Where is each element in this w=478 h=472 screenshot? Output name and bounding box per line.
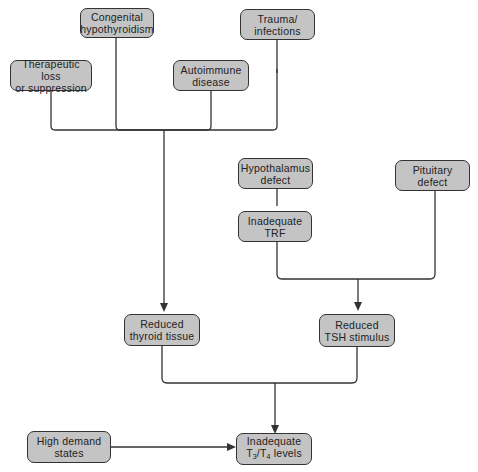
node-label: Trauma/ infections xyxy=(254,13,300,37)
node-trauma-infections: Trauma/ infections xyxy=(240,9,315,40)
edge-pituitary xyxy=(355,190,435,279)
label-slash-t: /T xyxy=(257,447,267,459)
node-label: High demand states xyxy=(37,435,102,459)
edge-therapeutic xyxy=(51,90,160,130)
edge-thyroid-bottom xyxy=(162,346,274,383)
node-high-demand-states: High demand states xyxy=(27,431,111,463)
arrowhead-t3t4-left xyxy=(227,443,236,451)
node-therapeutic-loss: Therapeutic loss or suppression xyxy=(10,60,92,91)
label-t: T xyxy=(246,447,253,459)
node-label: Therapeutic loss or suppression xyxy=(11,58,91,94)
node-reduced-tsh-stimulus: Reduced TSH stimulus xyxy=(319,314,395,347)
node-label: Autoimmune disease xyxy=(181,64,242,88)
edge-congenital xyxy=(116,38,160,130)
node-label: Hypothalamus defect xyxy=(241,162,311,186)
node-pituitary-defect: Pituitary defect xyxy=(395,160,470,191)
node-label: Reduced TSH stimulus xyxy=(325,319,390,343)
node-inadequate-t3-t4-levels: Inadequate T3/T4 levels xyxy=(236,433,312,465)
edge-autoimmune xyxy=(160,90,211,130)
node-label: Inadequate T3/T4 levels xyxy=(246,435,302,463)
node-label: Congenital hypothyroidism xyxy=(80,11,153,35)
arrowhead-tsh xyxy=(354,302,362,311)
node-congenital-hypothyroidism: Congenital hypothyroidism xyxy=(80,8,154,38)
node-label: Reduced thyroid tissue xyxy=(130,318,195,342)
edge-trf xyxy=(277,238,355,279)
arrowhead-thyroid xyxy=(160,303,168,312)
node-hypothalamus-defect: Hypothalamus defect xyxy=(238,158,313,189)
node-reduced-thyroid-tissue: Reduced thyroid tissue xyxy=(124,314,200,346)
node-label: Pituitary defect xyxy=(413,164,453,188)
label-levels: levels xyxy=(271,447,302,459)
edge-tsh-bottom xyxy=(274,346,357,383)
node-label: Inadequate TRF xyxy=(248,215,303,239)
node-autoimmune-disease: Autoimmune disease xyxy=(173,60,249,91)
node-inadequate-trf: Inadequate TRF xyxy=(238,211,312,242)
label-line1: Inadequate xyxy=(247,435,302,447)
